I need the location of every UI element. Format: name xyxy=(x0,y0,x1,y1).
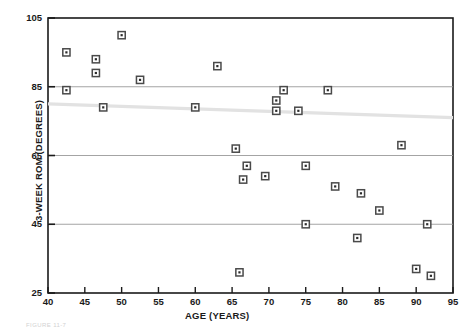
data-point xyxy=(302,162,309,169)
data-point xyxy=(427,272,434,279)
data-point xyxy=(243,162,250,169)
data-point xyxy=(92,56,99,63)
data-point xyxy=(324,87,331,94)
data-point xyxy=(92,69,99,76)
data-point xyxy=(63,87,70,94)
data-point xyxy=(424,221,431,228)
x-tick-label-45: 45 xyxy=(73,296,97,307)
y-tick-label-105: 105 xyxy=(16,12,42,23)
data-point xyxy=(214,63,221,70)
data-point xyxy=(398,142,405,149)
x-tick-label-65: 65 xyxy=(220,296,244,307)
data-point xyxy=(63,49,70,56)
x-tick-label-55: 55 xyxy=(146,296,170,307)
x-tick-label-85: 85 xyxy=(367,296,391,307)
data-point xyxy=(302,221,309,228)
figure-caption: FIGURE 11-7 xyxy=(26,322,66,328)
data-point xyxy=(376,207,383,214)
data-point xyxy=(136,76,143,83)
data-point xyxy=(280,87,287,94)
data-point xyxy=(354,234,361,241)
data-point xyxy=(295,107,302,114)
y-tick-label-85: 85 xyxy=(16,81,42,92)
x-tick-label-95: 95 xyxy=(441,296,465,307)
y-tick-label-25: 25 xyxy=(16,287,42,298)
x-tick-label-70: 70 xyxy=(257,296,281,307)
data-point xyxy=(236,269,243,276)
x-tick-label-80: 80 xyxy=(331,296,355,307)
data-point xyxy=(118,32,125,39)
x-tick-label-60: 60 xyxy=(183,296,207,307)
data-point xyxy=(332,183,339,190)
data-point xyxy=(232,145,239,152)
x-tick-label-75: 75 xyxy=(294,296,318,307)
data-point xyxy=(100,104,107,111)
data-point xyxy=(240,176,247,183)
data-point xyxy=(413,265,420,272)
data-point xyxy=(357,190,364,197)
data-point xyxy=(273,107,280,114)
y-tick-label-45: 45 xyxy=(16,218,42,229)
figure-container: 3-WEEK ROM (DEGREES) AGE (YEARS) 4045505… xyxy=(0,0,469,332)
x-tick-label-50: 50 xyxy=(110,296,134,307)
y-tick-label-65: 65 xyxy=(16,150,42,161)
data-point xyxy=(262,173,269,180)
scatter-plot xyxy=(0,0,469,332)
x-axis-title: AGE (YEARS) xyxy=(185,310,249,321)
x-tick-label-90: 90 xyxy=(404,296,428,307)
data-point xyxy=(192,104,199,111)
data-point xyxy=(273,97,280,104)
